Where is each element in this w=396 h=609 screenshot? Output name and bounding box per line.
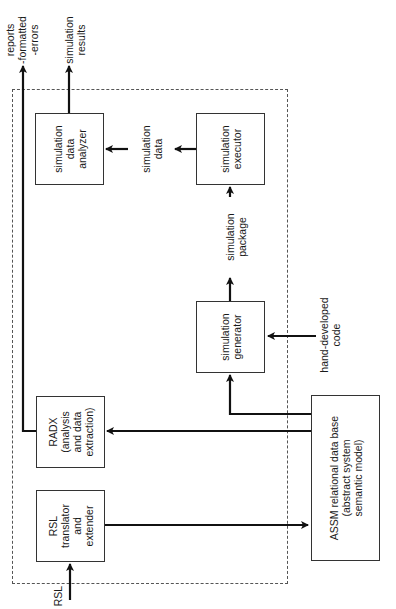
simulation-generator-box: simulation generator — [196, 301, 265, 373]
simulation-results-label: simulation results — [63, 10, 87, 70]
simulation-generator-label: simulation generator — [219, 313, 243, 360]
rsl-input-label: RSL — [52, 584, 64, 608]
assm-database-label: ASSM relational data base (abstract syst… — [328, 416, 364, 540]
simulation-package-label: simulation package — [224, 207, 248, 267]
radx-box: RADX (analysis and data extraction) — [36, 396, 105, 468]
hand-developed-code-label: hand-developed code — [318, 295, 342, 375]
simulation-data-analyzer-label: simulation data analyzer — [52, 125, 88, 172]
simulation-data-analyzer-box: simulation data analyzer — [35, 113, 104, 185]
diagram-canvas: simulation data analyzer simulation exec… — [0, 0, 396, 609]
simulation-executor-label: simulation executor — [219, 125, 243, 172]
radx-label: RADX (analysis and data extraction) — [47, 407, 95, 456]
simulation-data-label: simulation data — [140, 119, 164, 179]
rsl-translator-label: RSL translator and extender — [47, 504, 95, 548]
reports-output-label: reports -formatted -errors — [4, 10, 40, 70]
assm-database-box: ASSM relational data base (abstract syst… — [311, 395, 380, 561]
simulation-executor-box: simulation executor — [196, 113, 265, 185]
rsl-translator-box: RSL translator and extender — [36, 490, 105, 562]
